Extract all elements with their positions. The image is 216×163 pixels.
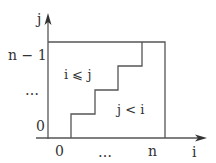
y-tick-n-minus-1: n − 1: [8, 47, 47, 63]
x-tick-ellipsis: …: [98, 144, 112, 160]
y-tick-ellipsis: …: [25, 82, 39, 98]
x-tick-n: n: [148, 143, 157, 159]
staircase-boundary: [71, 42, 142, 138]
diagram-canvas: j i n − 1 … 0 0 … n i ⩽ j j < i: [0, 0, 216, 163]
y-tick-0: 0: [36, 118, 45, 134]
y-axis-label: j: [35, 11, 41, 27]
x-tick-0: 0: [55, 143, 64, 159]
region-label-lower-right: j < i: [115, 102, 144, 117]
region-label-upper-left: i ⩽ j: [64, 67, 91, 82]
x-axis-label: i: [192, 144, 197, 160]
